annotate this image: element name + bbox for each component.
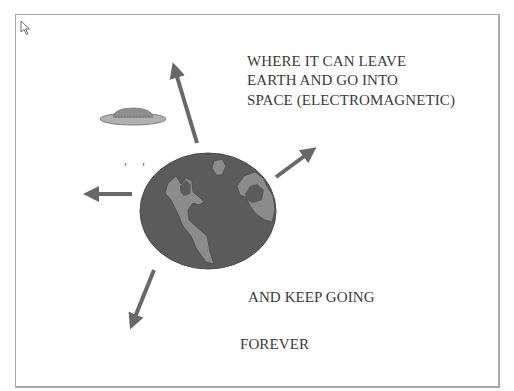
arrow-up-right-icon bbox=[276, 152, 310, 177]
earth-globe-icon bbox=[140, 153, 276, 269]
caption-line-3: SPACE (ELECTROMAGNETIC) bbox=[247, 91, 455, 110]
keep-going-text: AND KEEP GOING bbox=[248, 288, 375, 307]
arrow-down-left-icon bbox=[133, 270, 154, 322]
dust-marks bbox=[125, 163, 144, 166]
arrow-up-icon bbox=[175, 70, 197, 143]
caption-line-2: EARTH AND GO INTO bbox=[247, 71, 398, 90]
caption-line-1: WHERE IT CAN LEAVE bbox=[247, 52, 406, 71]
flying-saucer-icon bbox=[100, 108, 166, 125]
forever-text: FOREVER bbox=[240, 335, 309, 354]
